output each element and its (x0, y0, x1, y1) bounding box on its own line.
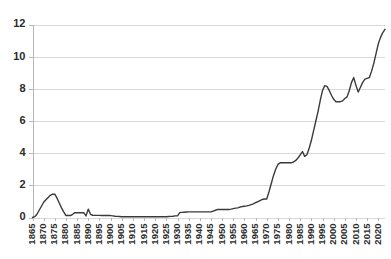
x-tick-label-1935: 1935 (182, 223, 193, 245)
x-tick-label-1970: 1970 (260, 224, 271, 245)
x-tick-label-1910: 1910 (126, 224, 137, 245)
y-tick-label-8: 8 (19, 82, 25, 94)
x-tick-label-1865: 1865 (26, 223, 37, 245)
x-tick-label-1985: 1985 (294, 223, 305, 245)
x-tick-label-1945: 1945 (204, 223, 215, 245)
x-tick-label-1965: 1965 (249, 223, 260, 245)
x-tick-label-1995: 1995 (316, 223, 327, 245)
x-axis-tick-labels: 1865187018751880188518901895190019051910… (26, 223, 383, 245)
x-tick-label-1915: 1915 (138, 223, 149, 245)
chart-container: 024681012 186518701875188018851890189519… (0, 0, 391, 259)
x-tick-label-1975: 1975 (271, 223, 282, 245)
x-tick-label-1885: 1885 (71, 223, 82, 245)
x-tick-label-2020: 2020 (372, 224, 383, 245)
x-tick-label-1905: 1905 (115, 223, 126, 245)
y-tick-label-0: 0 (19, 210, 25, 222)
y-tick-label-4: 4 (19, 146, 26, 158)
x-tick-label-1895: 1895 (93, 223, 104, 245)
y-axis-tick-labels: 024681012 (13, 17, 26, 222)
x-tick-label-1880: 1880 (59, 224, 70, 245)
line-chart: 024681012 186518701875188018851890189519… (0, 0, 391, 259)
x-tick-label-1955: 1955 (227, 223, 238, 245)
x-tick-label-2005: 2005 (338, 223, 349, 245)
x-tick-label-2000: 2000 (327, 224, 338, 245)
x-tick-label-1940: 1940 (193, 224, 204, 245)
x-tick-label-1980: 1980 (283, 224, 294, 245)
x-tick-label-1875: 1875 (48, 223, 59, 245)
x-tick-label-1990: 1990 (305, 224, 316, 245)
x-tick-label-1930: 1930 (171, 224, 182, 245)
x-tick-label-1870: 1870 (37, 224, 48, 245)
x-tick-label-1900: 1900 (104, 224, 115, 245)
y-tick-label-6: 6 (19, 114, 25, 126)
x-tick-label-1960: 1960 (238, 224, 249, 245)
x-tick-label-1890: 1890 (82, 224, 93, 245)
x-tick-label-2010: 2010 (350, 224, 361, 245)
y-tick-label-2: 2 (19, 178, 25, 190)
y-tick-label-12: 12 (13, 17, 25, 29)
gridlines (33, 26, 386, 219)
y-tick-label-10: 10 (13, 50, 25, 62)
x-tick-label-1950: 1950 (216, 224, 227, 245)
x-tick-label-1925: 1925 (160, 223, 171, 245)
x-tick-label-1920: 1920 (149, 224, 160, 245)
axis-lines (29, 25, 379, 221)
x-tick-label-2015: 2015 (361, 223, 372, 245)
